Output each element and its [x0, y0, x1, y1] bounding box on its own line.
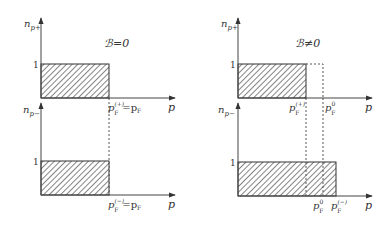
x-axis-label: p [168, 101, 175, 114]
tick-label-one: 1 [33, 60, 39, 70]
fermi-momentum-zero-label: p0F [313, 198, 323, 214]
tick-label-one: 1 [230, 60, 236, 70]
y-axis-label: np− [23, 104, 40, 118]
panel-title: ℬ=0 [104, 37, 129, 50]
unpolarized-fermi-sea-outline [306, 64, 323, 98]
y-axis-label: np+ [221, 18, 238, 32]
right-panel: ℬ≠0 np+ 1 p(+)F p0F p np− 1 p0F p(−)F [218, 18, 372, 214]
occupied-states-minus [238, 162, 336, 196]
fermi-momentum-plus-label: p(+)F [289, 100, 306, 116]
left-panel: ℬ=0 np+ 1 p(+)F=pF p np− 1 p(−)F=pF p [23, 18, 175, 213]
y-axis-label: np− [218, 104, 235, 118]
fermi-momentum-minus-label: p(−)F [331, 198, 348, 214]
right-bottom-plot: np− 1 p0F p(−)F p [218, 103, 372, 214]
fermi-distribution-diagram: ℬ=0 np+ 1 p(+)F=pF p np− 1 p(−)F=pF p ℬ≠… [0, 0, 387, 225]
x-axis-label: p [168, 198, 175, 211]
fermi-momentum-zero-label: p0F [325, 100, 335, 116]
occupied-states-plus [238, 64, 306, 98]
left-top-plot: np+ 1 p(+)F=pF p [24, 18, 175, 116]
occupied-states-minus [41, 161, 109, 195]
fermi-momentum-label: p(+)F=pF [108, 100, 141, 116]
occupied-states-plus [41, 64, 109, 98]
left-bottom-plot: np− 1 p(−)F=pF p [23, 103, 175, 213]
y-axis-label: np+ [24, 18, 41, 32]
x-axis-label: p [365, 101, 372, 114]
right-top-plot: np+ 1 p(+)F p0F p [221, 18, 372, 116]
panel-title: ℬ≠0 [295, 37, 320, 50]
tick-label-one: 1 [230, 158, 236, 168]
x-axis-label: p [365, 199, 372, 212]
fermi-momentum-label: p(−)F=pF [108, 197, 141, 213]
tick-label-one: 1 [33, 157, 39, 167]
